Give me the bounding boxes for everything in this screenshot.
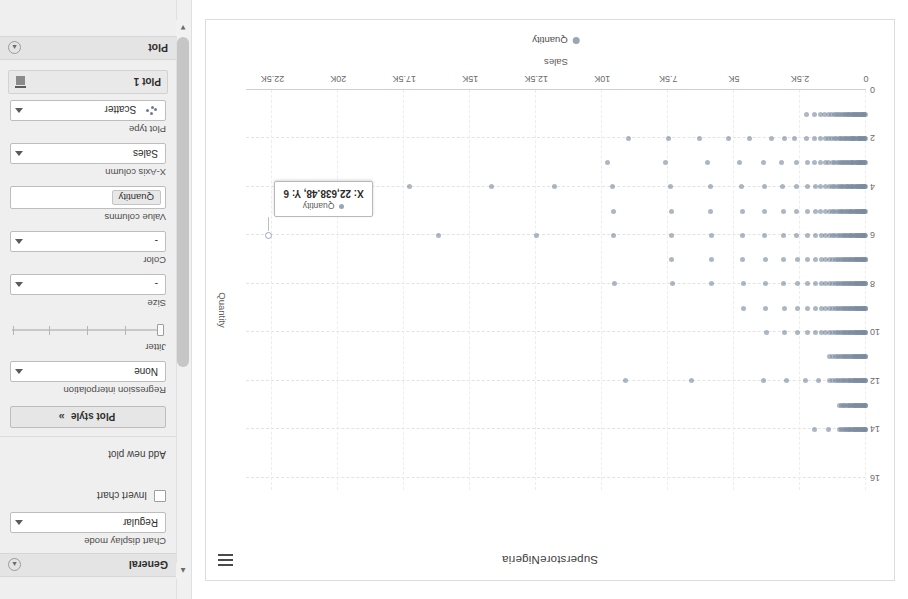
value-columns-chip-row[interactable]: Quantity — [10, 186, 166, 209]
scatter-point[interactable] — [813, 257, 818, 262]
section-header-general[interactable]: General ▲ — [0, 553, 176, 577]
add-new-plot-link[interactable]: Add new plot — [108, 449, 166, 460]
scatter-point[interactable] — [823, 209, 828, 214]
value-column-chip[interactable]: Quantity — [112, 190, 161, 205]
scatter-point[interactable] — [805, 306, 810, 311]
scatter-point[interactable] — [763, 306, 768, 311]
scatter-point[interactable] — [782, 136, 787, 141]
scatter-point[interactable] — [737, 160, 742, 165]
scrollbar-thumb[interactable] — [177, 37, 189, 367]
scatter-point[interactable] — [813, 233, 818, 238]
select-chart-display-mode[interactable]: Regular — [10, 512, 166, 533]
scrollbar-up-arrow[interactable]: ▲ — [175, 563, 191, 579]
scatter-point[interactable] — [761, 378, 766, 383]
plot-style-button[interactable]: Plot style » — [10, 406, 166, 428]
scatter-point[interactable] — [670, 281, 675, 286]
scatter-point[interactable] — [740, 209, 745, 214]
scatter-point[interactable] — [803, 378, 808, 383]
scatter-point[interactable] — [812, 427, 817, 432]
scatter-point[interactable] — [805, 281, 810, 286]
scatter-point[interactable] — [709, 257, 714, 262]
scatter-point[interactable] — [763, 257, 768, 262]
scatter-point[interactable] — [552, 184, 557, 189]
jitter-slider-thumb[interactable] — [157, 324, 164, 336]
scatter-point[interactable] — [709, 281, 714, 286]
scatter-point[interactable] — [813, 306, 818, 311]
scatter-point[interactable] — [781, 281, 786, 286]
scrollbar-down-arrow[interactable]: ▼ — [175, 20, 191, 36]
scatter-point[interactable] — [818, 160, 823, 165]
scatter-point[interactable] — [805, 209, 810, 214]
scatter-point[interactable] — [795, 306, 800, 311]
trash-icon[interactable] — [15, 76, 26, 88]
scatter-point[interactable] — [669, 257, 674, 262]
scatter-point[interactable] — [794, 160, 799, 165]
scatter-point[interactable] — [708, 209, 713, 214]
scatter-point[interactable] — [741, 306, 746, 311]
plot-list-item[interactable]: Plot 1 — [8, 70, 168, 94]
scatter-point[interactable] — [762, 233, 767, 238]
scatter-point[interactable] — [612, 281, 617, 286]
chevron-collapse-icon[interactable]: ▲ — [8, 559, 21, 572]
panel-scrollbar[interactable]: ▲ ▼ — [176, 0, 192, 599]
scatter-point[interactable] — [823, 136, 828, 141]
scatter-point[interactable] — [762, 184, 767, 189]
scatter-point[interactable] — [804, 136, 809, 141]
scatter-point[interactable] — [741, 281, 746, 286]
scatter-point[interactable] — [804, 112, 809, 117]
scatter-point[interactable] — [407, 184, 412, 189]
scatter-point[interactable] — [705, 160, 710, 165]
scatter-point[interactable] — [818, 184, 823, 189]
scatter-point[interactable] — [779, 160, 784, 165]
scatter-point[interactable] — [805, 184, 810, 189]
scatter-point[interactable] — [669, 209, 674, 214]
scatter-point[interactable] — [781, 257, 786, 262]
scatter-point[interactable] — [813, 209, 818, 214]
scatter-point[interactable] — [436, 233, 441, 238]
scatter-point[interactable] — [610, 184, 615, 189]
scatter-point[interactable] — [764, 330, 769, 335]
scatter-point[interactable] — [826, 427, 831, 432]
section-header-plot[interactable]: Plot ▲ — [0, 36, 176, 60]
scatter-point[interactable] — [781, 209, 786, 214]
scatter-point[interactable] — [782, 306, 787, 311]
scatter-point[interactable] — [792, 136, 797, 141]
scatter-point[interactable] — [534, 233, 539, 238]
scatter-point[interactable] — [761, 160, 766, 165]
scatter-point[interactable] — [726, 136, 731, 141]
scatter-point[interactable] — [781, 233, 786, 238]
scatter-point[interactable] — [689, 378, 694, 383]
scatter-point[interactable] — [823, 184, 828, 189]
scatter-point[interactable] — [819, 281, 824, 286]
hamburger-menu-icon[interactable] — [218, 554, 233, 566]
select-size[interactable]: - — [10, 274, 166, 295]
scatter-point[interactable] — [763, 281, 768, 286]
scatter-point[interactable] — [740, 257, 745, 262]
scatter-point[interactable] — [669, 233, 674, 238]
scatter-point[interactable] — [813, 330, 818, 335]
scatter-point[interactable] — [782, 330, 787, 335]
scatter-point[interactable] — [623, 378, 628, 383]
scatter-point[interactable] — [812, 112, 817, 117]
select-color[interactable]: - — [10, 231, 166, 252]
scatter-point[interactable] — [780, 184, 785, 189]
scatter-point[interactable] — [818, 136, 823, 141]
select-regression-interpolation[interactable]: None — [10, 361, 166, 382]
scatter-point[interactable] — [795, 257, 800, 262]
scatter-point[interactable] — [819, 257, 824, 262]
scatter-point[interactable] — [823, 306, 828, 311]
scatter-point[interactable] — [812, 136, 817, 141]
scatter-point[interactable] — [805, 160, 810, 165]
scatter-point[interactable] — [489, 184, 494, 189]
scatter-point[interactable] — [708, 184, 713, 189]
scatter-point[interactable] — [813, 281, 818, 286]
scatter-point[interactable] — [740, 184, 745, 189]
scatter-point[interactable] — [668, 184, 673, 189]
scatter-point[interactable] — [819, 330, 824, 335]
scatter-point[interactable] — [805, 233, 810, 238]
scatter-point[interactable] — [666, 136, 671, 141]
scatter-point[interactable] — [794, 209, 799, 214]
scatter-point[interactable] — [605, 160, 610, 165]
scatter-point[interactable] — [697, 136, 702, 141]
scatter-point[interactable] — [784, 378, 789, 383]
